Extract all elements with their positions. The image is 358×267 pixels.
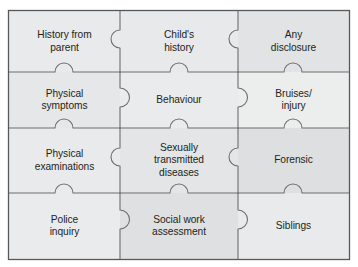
piece-fill-siblings: [238, 193, 349, 259]
piece-fill-behaviour: [120, 72, 238, 128]
puzzle-graphic: [0, 0, 358, 267]
piece-fills: [9, 11, 349, 259]
piece-fill-forensic: [238, 128, 349, 193]
jigsaw-puzzle-figure: History from parent Child's history Any …: [0, 0, 358, 267]
piece-fill-police-inquiry: [9, 193, 120, 259]
piece-fill-physical-examinations: [9, 128, 120, 193]
piece-fill-bruises-injury: [238, 72, 349, 128]
piece-fill-physical-symptoms: [9, 72, 120, 128]
piece-fill-sexually-transmitted: [120, 128, 238, 193]
piece-fill-social-work-assessment: [120, 193, 238, 259]
